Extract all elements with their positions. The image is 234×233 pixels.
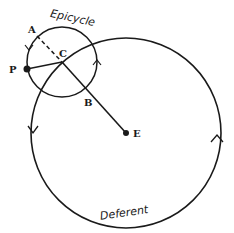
label-c: C: [59, 48, 67, 59]
deferent-label: Deferent: [99, 203, 149, 223]
label-a: A: [27, 24, 36, 35]
deferent-arrow-left-icon: [28, 126, 38, 133]
label-p: P: [9, 64, 17, 75]
epicycle-arrow-left-icon: [25, 45, 33, 50]
line-earth-to-center: [62, 62, 126, 133]
earth-point: [123, 130, 129, 136]
epicycle-diagram: Epicycle Deferent A B C P E: [0, 0, 234, 233]
epicycle-label: Epicycle: [49, 7, 96, 29]
planet-point: [24, 66, 31, 73]
label-b: B: [84, 97, 92, 108]
label-e: E: [133, 128, 141, 139]
